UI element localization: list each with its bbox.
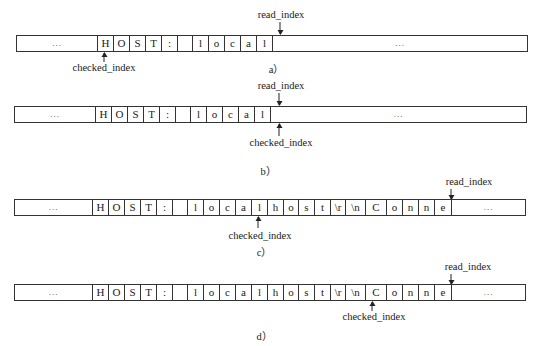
buffer-cell: n <box>419 285 435 300</box>
buffer-cell: s <box>299 285 315 300</box>
buffer-cell: l <box>188 200 204 215</box>
buffer-cell: ... <box>273 36 527 51</box>
buffer-cell: c <box>223 107 239 122</box>
panel-a: read_index ... H O S T : l o c a l ... c… <box>0 0 538 80</box>
checked-index-label: checked_index <box>343 311 406 322</box>
buffer-cell: l <box>191 107 207 122</box>
checked-index-arrow <box>104 53 105 62</box>
buffer-cell: ... <box>17 36 98 51</box>
buffer-cell: ... <box>15 200 93 215</box>
buffer-cell: ... <box>271 107 526 122</box>
buffer-cell: e <box>435 200 452 215</box>
checked-index-arrow <box>258 217 259 228</box>
buffer-cell: ... <box>15 107 96 122</box>
checked-index-label: checked_index <box>73 62 136 73</box>
buffer-cell: : <box>157 285 173 300</box>
buffer-cell: o <box>204 200 220 215</box>
buffer-cell: l <box>255 107 271 122</box>
read-index-label: read_index <box>446 176 493 187</box>
buffer-cell: O <box>109 285 125 300</box>
buffer-cell: e <box>435 285 452 300</box>
buffer-cell <box>173 200 188 215</box>
checked-index-arrow <box>279 124 280 136</box>
buffer-b: ... H O S T : l o c a l ... <box>14 106 527 123</box>
panel-d: read_index ... H O S T : l o c a l h o s… <box>0 255 538 335</box>
buffer-cell: l <box>257 36 273 51</box>
buffer-cell: T <box>141 285 157 300</box>
checked-index-label: checked_index <box>250 137 313 148</box>
panel-caption: a） <box>269 61 284 76</box>
buffer-cell: n <box>419 200 435 215</box>
buffer-cell: h <box>268 285 284 300</box>
buffer-cell: S <box>125 285 141 300</box>
buffer-cell: S <box>125 200 141 215</box>
buffer-cell: H <box>93 285 109 300</box>
buffer-cell: s <box>299 200 315 215</box>
panel-b: read_index ... H O S T : l o c a l ... c… <box>0 80 538 160</box>
buffer-cell <box>178 36 193 51</box>
buffer-cell: \n <box>346 200 366 215</box>
buffer-cell: o <box>204 285 220 300</box>
read-index-label: read_index <box>445 261 492 272</box>
buffer-cell: O <box>109 200 125 215</box>
buffer-cell: O <box>114 36 130 51</box>
buffer-cell: : <box>160 107 176 122</box>
buffer-cell: o <box>284 200 299 215</box>
buffer-cell: C <box>366 200 387 215</box>
buffer-cell: t <box>315 200 331 215</box>
checked-index-label: checked_index <box>229 230 292 241</box>
buffer-cell: \r <box>331 200 346 215</box>
buffer-cell: o <box>209 36 225 51</box>
read-index-label: read_index <box>258 80 305 91</box>
checked-index-arrow <box>372 302 373 311</box>
buffer-cell: T <box>146 36 162 51</box>
read-index-label: read_index <box>258 9 305 20</box>
buffer-cell: \n <box>346 285 366 300</box>
buffer-cell: a <box>241 36 257 51</box>
panel-caption: d） <box>256 328 271 343</box>
buffer-cell: n <box>403 285 419 300</box>
buffer-cell: S <box>130 36 146 51</box>
buffer-cell: H <box>93 200 109 215</box>
buffer-cell: S <box>128 107 144 122</box>
buffer-cell: h <box>268 200 284 215</box>
buffer-cell: O <box>112 107 128 122</box>
buffer-cell: a <box>236 200 252 215</box>
buffer-cell: c <box>220 285 236 300</box>
buffer-cell: l <box>188 285 204 300</box>
buffer-cell: T <box>141 200 157 215</box>
read-index-arrow <box>451 189 452 199</box>
read-index-arrow <box>279 93 280 105</box>
buffer-cell: T <box>144 107 160 122</box>
buffer-d: ... H O S T : l o c a l h o s t \r \n C … <box>14 284 526 301</box>
buffer-cell: o <box>387 200 403 215</box>
buffer-cell: \r <box>331 285 346 300</box>
buffer-cell: a <box>239 107 255 122</box>
buffer-cell: ... <box>15 285 93 300</box>
read-index-arrow <box>280 22 281 34</box>
buffer-cell: c <box>225 36 241 51</box>
buffer-a: ... H O S T : l o c a l ... <box>16 35 528 52</box>
buffer-cell: C <box>366 285 387 300</box>
buffer-cell: t <box>315 285 331 300</box>
read-index-arrow <box>451 274 452 284</box>
buffer-cell <box>176 107 191 122</box>
buffer-cell: n <box>403 200 419 215</box>
buffer-cell: H <box>98 36 114 51</box>
buffer-cell: c <box>220 200 236 215</box>
buffer-cell: : <box>157 200 173 215</box>
buffer-cell: a <box>236 285 252 300</box>
panel-c: read_index ... H O S T : l o c a l h o s… <box>0 170 538 250</box>
buffer-cell: o <box>207 107 223 122</box>
buffer-cell <box>173 285 188 300</box>
buffer-cell: o <box>284 285 299 300</box>
buffer-cell: ... <box>452 285 525 300</box>
buffer-cell: : <box>162 36 178 51</box>
buffer-cell: H <box>96 107 112 122</box>
buffer-cell: l <box>193 36 209 51</box>
buffer-cell: o <box>387 285 403 300</box>
buffer-cell: ... <box>452 200 525 215</box>
buffer-cell: l <box>252 285 268 300</box>
buffer-c: ... H O S T : l o c a l h o s t \r \n C … <box>14 199 526 216</box>
buffer-cell: l <box>252 200 268 215</box>
